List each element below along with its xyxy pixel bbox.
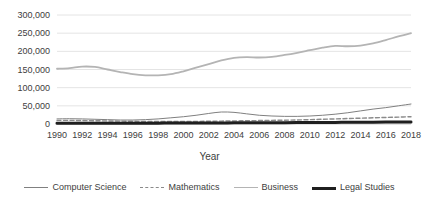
x-axis-title: Year xyxy=(0,152,419,162)
series-line xyxy=(57,122,411,123)
legend-swatch-icon xyxy=(24,183,48,192)
y-axis-tick-label: 250,000 xyxy=(6,28,50,38)
y-axis-tick-label: 100,000 xyxy=(6,83,50,93)
legend-item[interactable]: Legal Studies xyxy=(312,182,395,192)
x-axis-tick-label: 2018 xyxy=(396,130,426,140)
y-axis-tick-label: 200,000 xyxy=(6,46,50,56)
legend-item[interactable]: Mathematics xyxy=(140,182,219,192)
y-axis-tick-label: 300,000 xyxy=(6,10,50,20)
legend-label: Mathematics xyxy=(168,182,219,192)
legend-swatch-icon xyxy=(234,183,258,192)
y-axis-tick-label: 50,000 xyxy=(6,101,50,111)
series-line xyxy=(57,117,411,122)
y-axis-tick-label: 150,000 xyxy=(6,65,50,75)
legend-item[interactable]: Computer Science xyxy=(24,182,126,192)
chart-legend: Computer ScienceMathematicsBusinessLegal… xyxy=(0,182,419,192)
legend-item[interactable]: Business xyxy=(234,182,299,192)
legend-label: Computer Science xyxy=(52,182,126,192)
legend-swatch-icon xyxy=(140,183,164,192)
legend-label: Business xyxy=(262,182,299,192)
legend-swatch-icon xyxy=(312,183,336,192)
y-axis-tick-label: 0 xyxy=(6,119,50,129)
legend-label: Legal Studies xyxy=(340,182,395,192)
series-lines xyxy=(57,33,411,123)
